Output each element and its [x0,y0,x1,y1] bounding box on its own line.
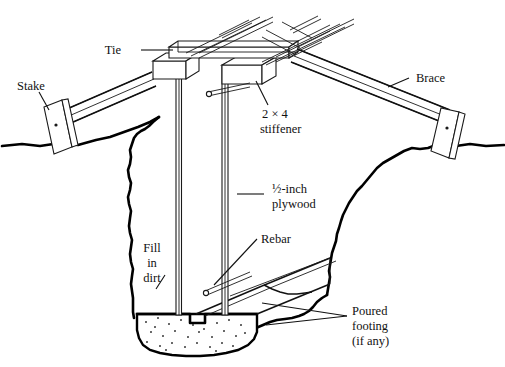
label-footing-line3: (if any) [352,334,389,348]
plywood-form-wall-rear [176,60,182,315]
label-stiffener-line1: 2 × 4 [262,107,289,121]
poured-footing [137,314,257,356]
label-rebar: Rebar [261,232,292,246]
label-footing-line1: Poured [352,304,388,318]
label-stiffener-line2: stiffener [260,122,302,136]
stake-right [431,108,465,159]
brace-left [60,72,156,126]
label-fill-line2: in [147,256,157,270]
footing-perspective-plane [196,258,336,316]
plywood-form-wall-front [222,66,228,315]
excavation-wall-right [327,145,436,295]
stiffener-cap-front [222,57,276,84]
label-tie: Tie [105,43,122,57]
label-fill-line3: dirt [143,271,161,285]
leader-brace [388,78,409,87]
excavation-wall-left [128,117,159,318]
label-plywood-line2: plywood [272,197,317,211]
label-footing-line2: footing [352,319,389,333]
diagram-canvas: Tie Stake Brace 2 × 4 stiffener ½-inch p… [0,0,505,367]
label-brace: Brace [416,71,446,85]
label-fill-line1: Fill [143,241,161,255]
label-plywood-line1: ½-inch [272,182,308,196]
ground-surface-left [2,117,159,146]
foundation-form-diagram: Tie Stake Brace 2 × 4 stiffener ½-inch p… [0,0,505,367]
label-stake: Stake [17,79,45,93]
